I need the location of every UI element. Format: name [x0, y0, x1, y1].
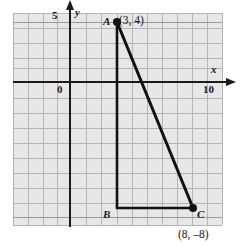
point-a-coordinates: (3, 4)	[119, 15, 144, 27]
point-c-coordinates: (8, –8)	[178, 229, 209, 241]
y-axis-tick-label-5: 5	[52, 10, 58, 21]
point-c-label: C	[197, 209, 204, 220]
x-axis-tick-label-10: 10	[203, 84, 214, 95]
point-a-label: A	[103, 16, 110, 27]
point-b-label: B	[103, 209, 110, 220]
origin-label: 0	[57, 84, 63, 95]
x-axis-label: x	[211, 64, 217, 75]
coordinate-plane-figure	[0, 0, 245, 246]
point-c-marker	[189, 204, 197, 212]
y-axis-label: y	[75, 7, 80, 18]
